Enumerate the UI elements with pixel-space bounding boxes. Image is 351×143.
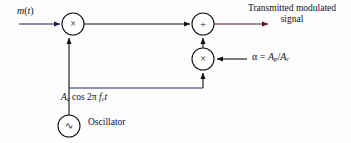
output-label-line2: signal [236,14,348,25]
sine-wave-icon: ∿ [62,121,76,131]
output-label-line1: Transmitted modulated [248,3,336,13]
block-diagram-canvas: × + × ∿ m(t) Transmitted modulated signa… [0,0,351,143]
multiply-icon: × [196,54,210,64]
oscillator-label: Oscillator [88,117,125,128]
carrier-cosine: cos 2 [70,92,92,102]
alpha-equals: = [257,51,268,62]
multiply-icon: × [66,19,80,29]
carrier-expression-label: Ac cos 2π fct [61,92,107,103]
output-signal-label: Transmitted modulated signal [236,3,348,25]
carrier-time-var: t [105,92,108,102]
input-signal-paren-close: ) [30,5,33,16]
plus-icon: + [196,19,210,30]
alpha-denominator-subscript: c [286,55,289,62]
input-signal-label: m(t) [17,5,34,17]
alpha-equation-label: α = Ap/Ac [252,51,289,63]
